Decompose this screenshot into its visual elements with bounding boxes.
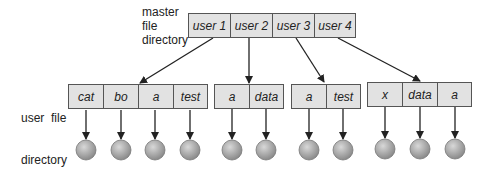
file-node xyxy=(145,140,165,160)
file-node xyxy=(222,140,242,160)
user-dir-entry: cat xyxy=(68,84,104,109)
user-dir-entry: x xyxy=(367,82,403,107)
master-entry: user 2 xyxy=(230,13,273,38)
user-dir-entry: bo xyxy=(103,84,139,109)
master-label: master file directory xyxy=(142,5,188,47)
master-entry: user 3 xyxy=(272,13,315,38)
file-node xyxy=(410,139,430,159)
master-entry: user 1 xyxy=(188,13,231,38)
user-dir-entry: a xyxy=(214,84,250,109)
file-node xyxy=(180,140,200,160)
label-line: directory xyxy=(142,33,188,47)
user-dir-entry: a xyxy=(138,84,174,109)
file-node xyxy=(299,140,319,160)
user-dir-entry: test xyxy=(326,84,361,109)
master-entry: user 4 xyxy=(314,13,356,38)
file-node xyxy=(445,139,465,159)
user-dir-entry: a xyxy=(291,84,327,109)
file-node xyxy=(256,140,276,160)
user-dir-entry: data xyxy=(402,82,438,107)
user-dir-entry: test xyxy=(173,84,208,109)
file-node xyxy=(375,139,395,159)
label-line: directory xyxy=(21,153,67,167)
user-dir-entry: data xyxy=(249,84,284,109)
file-node xyxy=(76,140,96,160)
user-dir-entry: a xyxy=(437,82,472,107)
label-line: master xyxy=(142,5,188,19)
pointer-user4 xyxy=(338,38,420,81)
label-line: file xyxy=(142,19,188,33)
file-node xyxy=(333,140,353,160)
user-label: user file directory xyxy=(21,83,67,170)
label-line: user file xyxy=(21,111,67,125)
file-node xyxy=(111,140,131,160)
pointer-user3 xyxy=(296,38,324,82)
